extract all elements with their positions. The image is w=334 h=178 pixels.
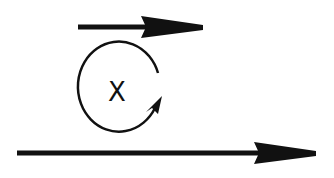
rotation-indicator: X <box>78 42 162 132</box>
center-label: X <box>108 77 126 107</box>
top-arrow <box>78 16 203 38</box>
top-arrow-head-icon <box>141 16 203 38</box>
bottom-arrow <box>17 142 316 164</box>
diagram-canvas: X <box>0 0 334 178</box>
bottom-arrow-head-icon <box>254 142 316 164</box>
